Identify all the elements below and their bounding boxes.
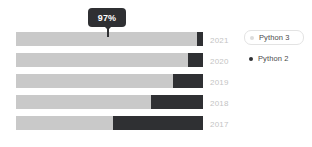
bar-row-2021[interactable] xyxy=(16,32,203,46)
tooltip: 97% xyxy=(88,8,126,27)
legend-label-python3: Python 3 xyxy=(259,33,289,42)
legend: Python 3 Python 2 xyxy=(244,30,304,72)
bar-segment-python3-2020[interactable] xyxy=(16,53,188,67)
legend-dot-icon-python2 xyxy=(249,57,253,61)
bar-segment-python2-2018[interactable] xyxy=(151,95,203,109)
bar-segment-python2-2020[interactable] xyxy=(188,53,203,67)
bar-segment-python3-2019[interactable] xyxy=(16,74,173,88)
bar-row-2020[interactable] xyxy=(16,53,203,67)
plot-area xyxy=(16,32,203,136)
axis-label-2018: 2018 xyxy=(210,99,236,109)
bar-segment-python2-2017[interactable] xyxy=(113,116,203,130)
bar-segment-python3-2017[interactable] xyxy=(16,116,113,130)
bar-row-2019[interactable] xyxy=(16,74,203,88)
legend-label-python2: Python 2 xyxy=(258,54,288,63)
legend-item-python2[interactable]: Python 2 xyxy=(244,51,304,66)
bar-row-2017[interactable] xyxy=(16,116,203,130)
legend-item-python3[interactable]: Python 3 xyxy=(244,30,304,45)
bar-row-2018[interactable] xyxy=(16,95,203,109)
bar-segment-python2-2019[interactable] xyxy=(173,74,203,88)
axis-label-2017: 2017 xyxy=(210,120,236,130)
bar-segment-python2-2021[interactable] xyxy=(197,32,203,46)
tooltip-value: 97% xyxy=(98,13,117,23)
tooltip-stem xyxy=(107,29,109,37)
axis-label-2020: 2020 xyxy=(210,57,236,67)
bar-segment-python3-2018[interactable] xyxy=(16,95,151,109)
axis-label-2021: 2021 xyxy=(210,36,236,46)
legend-dot-icon-python3 xyxy=(250,36,254,40)
stacked-bar-chart: 2021 2020 2019 2018 2017 97% Python 3 Py… xyxy=(0,0,312,147)
axis-label-2019: 2019 xyxy=(210,78,236,88)
